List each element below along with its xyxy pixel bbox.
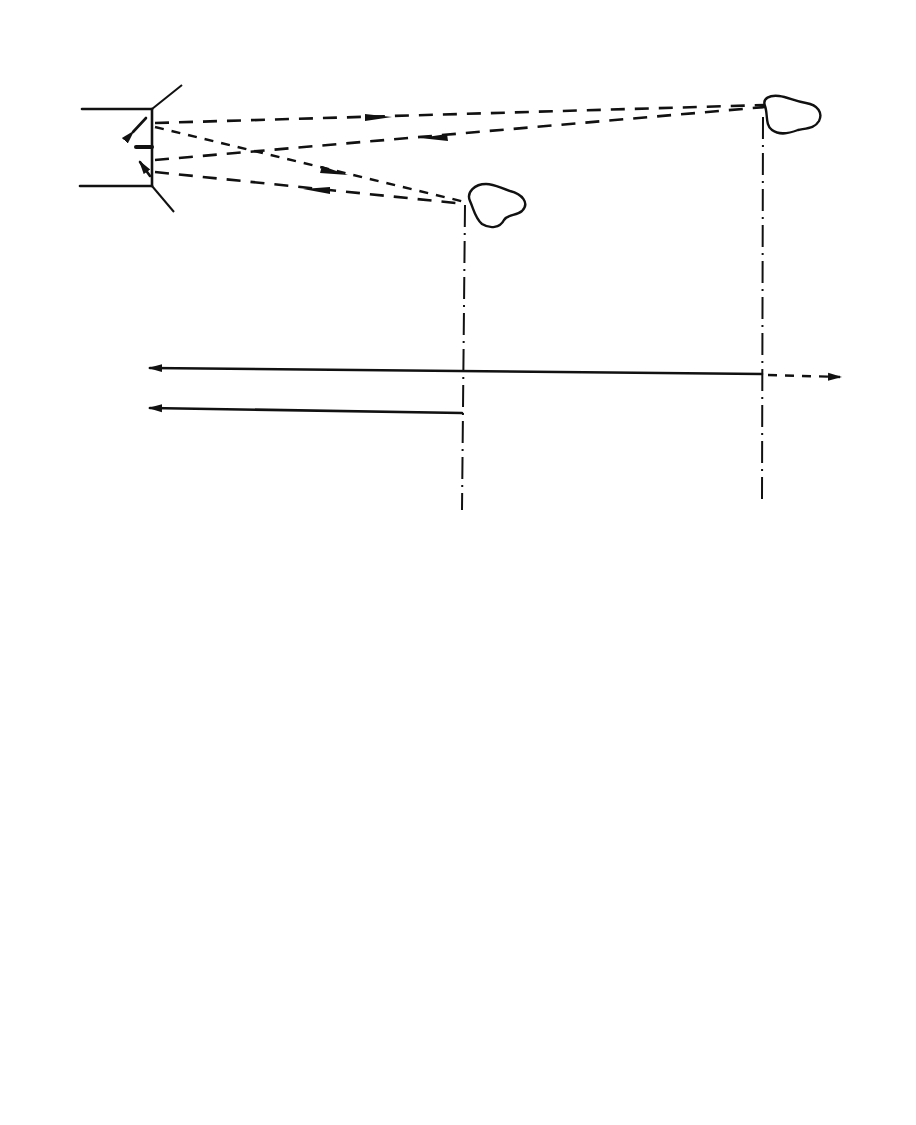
radiator-arrow-icon — [133, 118, 146, 132]
emitted-wave-arrow-icon — [365, 114, 392, 121]
distance-d2 — [150, 408, 462, 413]
object-1 — [469, 184, 525, 227]
receiver-pointer-line — [152, 186, 174, 212]
sensor-block — [80, 85, 182, 212]
reflected-wave-from-object-2 — [155, 107, 765, 160]
object-2-projection-line — [762, 117, 763, 500]
distance-dmax — [0, 0, 840, 377]
dmax-line — [150, 368, 762, 374]
wave-paths — [155, 105, 765, 204]
receiver-arrow-icon — [140, 162, 150, 176]
ultrasonic-sensing-diagram — [0, 0, 916, 1125]
object-2-shape-icon — [764, 96, 820, 134]
reflected-wave-arrow-icon — [420, 134, 448, 141]
object-1-projection-line — [462, 205, 465, 510]
dmax-extension-line — [768, 375, 840, 377]
object-1-shape-icon — [469, 184, 525, 227]
emitted-wave-to-object-2 — [155, 105, 765, 123]
reflected-wave-from-object-1 — [155, 172, 465, 204]
object-2 — [764, 96, 820, 134]
d2-line-left — [150, 408, 462, 413]
emitted-wave-1-arrow-icon — [320, 166, 348, 175]
radiator-pointer-line — [152, 85, 182, 109]
